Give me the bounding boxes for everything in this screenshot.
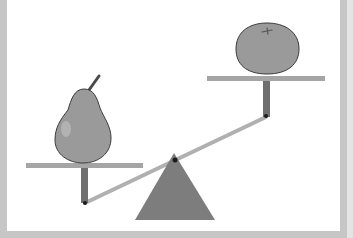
left-post xyxy=(81,167,88,203)
left-pivot xyxy=(83,201,87,205)
left-platform xyxy=(26,163,143,168)
right-platform xyxy=(207,76,325,81)
fulcrum-pivot xyxy=(173,158,178,163)
right-pivot xyxy=(264,114,268,118)
pear-icon xyxy=(55,76,111,163)
orange-icon xyxy=(236,23,299,74)
fulcrum-icon xyxy=(135,153,215,220)
balance-scale-illustration xyxy=(0,0,353,238)
right-post xyxy=(263,80,270,117)
